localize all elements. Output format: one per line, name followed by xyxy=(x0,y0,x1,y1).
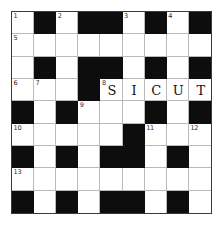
crossword-cell[interactable]: I xyxy=(123,79,145,101)
crossword-block-cell xyxy=(34,57,56,79)
crossword-cell[interactable]: 5 xyxy=(12,34,34,56)
crossword-block-cell xyxy=(189,101,211,123)
crossword-cell[interactable] xyxy=(56,124,78,146)
cell-letter: S xyxy=(100,79,121,100)
crossword-block-cell xyxy=(78,57,100,79)
crossword-block-cell xyxy=(78,79,100,101)
cell-letter: I xyxy=(123,79,144,100)
crossword-cell[interactable]: 6 xyxy=(12,79,34,101)
crossword-cell[interactable] xyxy=(123,101,145,123)
crossword-cell[interactable]: C xyxy=(145,79,167,101)
clue-number: 11 xyxy=(146,124,154,132)
crossword-cell[interactable] xyxy=(34,168,56,190)
crossword-cell[interactable] xyxy=(56,168,78,190)
crossword-cell[interactable] xyxy=(189,168,211,190)
crossword-cell[interactable] xyxy=(78,168,100,190)
crossword-cell[interactable] xyxy=(189,34,211,56)
crossword-block-cell xyxy=(100,57,122,79)
crossword-cell[interactable] xyxy=(100,101,122,123)
crossword-cell[interactable] xyxy=(34,146,56,168)
crossword-cell[interactable] xyxy=(34,124,56,146)
clue-number: 6 xyxy=(14,79,18,87)
crossword-block-cell xyxy=(34,12,56,34)
crossword-grid: 12345678SICUT910111213 xyxy=(12,12,211,213)
crossword-cell[interactable]: 13 xyxy=(12,168,34,190)
crossword-block-cell xyxy=(123,124,145,146)
clue-number: 7 xyxy=(36,79,40,87)
crossword-cell[interactable] xyxy=(34,101,56,123)
crossword-cell[interactable] xyxy=(167,168,189,190)
crossword-cell[interactable]: 9 xyxy=(78,101,100,123)
crossword-block-cell xyxy=(167,191,189,213)
crossword-block-cell xyxy=(145,101,167,123)
crossword-block-cell xyxy=(56,191,78,213)
crossword-cell[interactable]: T xyxy=(189,79,211,101)
crossword-puzzle: 12345678SICUT910111213 xyxy=(11,11,212,214)
crossword-cell[interactable] xyxy=(34,191,56,213)
clue-number: 13 xyxy=(14,168,22,176)
crossword-cell[interactable] xyxy=(78,191,100,213)
crossword-cell[interactable]: 12 xyxy=(189,124,211,146)
crossword-block-cell xyxy=(100,12,122,34)
cell-letter: U xyxy=(167,79,188,100)
crossword-cell[interactable]: 7 xyxy=(34,79,56,101)
crossword-block-cell xyxy=(189,12,211,34)
crossword-cell[interactable] xyxy=(123,34,145,56)
crossword-cell[interactable] xyxy=(189,146,211,168)
crossword-cell[interactable] xyxy=(78,34,100,56)
crossword-cell[interactable] xyxy=(189,191,211,213)
crossword-block-cell xyxy=(78,12,100,34)
crossword-cell[interactable] xyxy=(145,191,167,213)
crossword-cell[interactable] xyxy=(56,79,78,101)
crossword-cell[interactable] xyxy=(167,101,189,123)
cell-letter: C xyxy=(145,79,166,100)
crossword-cell[interactable]: U xyxy=(167,79,189,101)
crossword-cell[interactable] xyxy=(78,124,100,146)
crossword-block-cell xyxy=(56,146,78,168)
crossword-cell[interactable]: 8S xyxy=(100,79,122,101)
crossword-block-cell xyxy=(145,57,167,79)
crossword-cell[interactable]: 11 xyxy=(145,124,167,146)
crossword-block-cell xyxy=(12,146,34,168)
crossword-block-cell xyxy=(123,191,145,213)
crossword-block-cell xyxy=(100,191,122,213)
crossword-cell[interactable] xyxy=(145,146,167,168)
crossword-cell[interactable] xyxy=(56,57,78,79)
crossword-cell[interactable] xyxy=(167,124,189,146)
clue-number: 3 xyxy=(124,12,128,20)
crossword-cell[interactable]: 3 xyxy=(123,12,145,34)
crossword-block-cell xyxy=(56,101,78,123)
crossword-cell[interactable] xyxy=(56,34,78,56)
clue-number: 4 xyxy=(168,12,172,20)
crossword-cell[interactable] xyxy=(12,57,34,79)
clue-number: 5 xyxy=(14,34,18,42)
crossword-block-cell xyxy=(12,101,34,123)
clue-number: 9 xyxy=(80,101,84,109)
crossword-cell[interactable] xyxy=(78,146,100,168)
crossword-cell[interactable] xyxy=(167,57,189,79)
crossword-block-cell xyxy=(123,146,145,168)
crossword-cell[interactable] xyxy=(167,34,189,56)
clue-number: 10 xyxy=(14,124,22,132)
clue-number: 2 xyxy=(58,12,62,20)
cell-letter: T xyxy=(189,79,211,100)
crossword-block-cell xyxy=(167,146,189,168)
crossword-cell[interactable]: 4 xyxy=(167,12,189,34)
crossword-cell[interactable] xyxy=(123,168,145,190)
crossword-block-cell xyxy=(189,57,211,79)
crossword-cell[interactable] xyxy=(145,168,167,190)
clue-number: 1 xyxy=(14,12,18,20)
clue-number: 12 xyxy=(190,124,198,132)
crossword-cell[interactable] xyxy=(123,57,145,79)
crossword-cell[interactable] xyxy=(145,34,167,56)
crossword-cell[interactable]: 10 xyxy=(12,124,34,146)
crossword-cell[interactable] xyxy=(100,168,122,190)
crossword-cell[interactable]: 1 xyxy=(12,12,34,34)
crossword-block-cell xyxy=(100,146,122,168)
crossword-cell[interactable] xyxy=(100,124,122,146)
crossword-block-cell xyxy=(12,191,34,213)
crossword-cell[interactable] xyxy=(100,34,122,56)
crossword-cell[interactable]: 2 xyxy=(56,12,78,34)
crossword-block-cell xyxy=(145,12,167,34)
crossword-cell[interactable] xyxy=(34,34,56,56)
